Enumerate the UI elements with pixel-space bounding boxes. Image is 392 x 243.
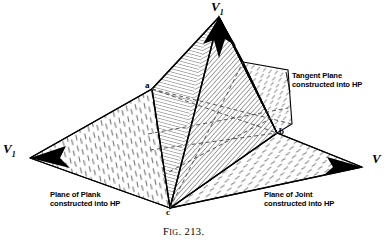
tangent-plane-annotation: Tangent Planeconstructed into HP (292, 72, 362, 89)
figure-213: V1 V1 V a b c Tangent Planeconstructed i… (0, 0, 392, 243)
point-a-label: a (145, 80, 150, 90)
point-b-label: b (279, 126, 284, 136)
apex-vertex-label: V1 (211, 0, 224, 18)
plane-of-plank-annotation: Plane of Plankconstructed into HP (50, 191, 120, 208)
point-c-label: c (166, 207, 170, 217)
left-vertex-label: V1 (3, 142, 16, 160)
plane-of-joint-annotation: Plane of Jointconstructed into HP (264, 191, 334, 208)
right-vertex-label: V (372, 152, 381, 167)
figure-caption: FIG. 213. (163, 226, 205, 238)
